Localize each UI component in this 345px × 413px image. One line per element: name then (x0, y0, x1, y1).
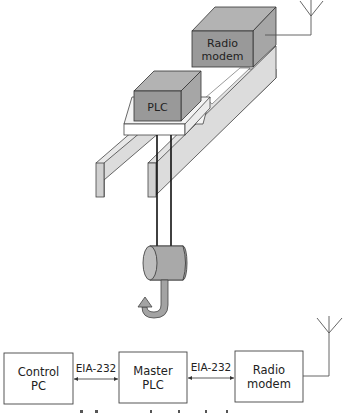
radio-modem-label-line1: Radio (207, 37, 238, 50)
plc-label: PLC (147, 101, 168, 114)
radio-modem-box: Radio modem (235, 351, 303, 402)
control-pc-label-line2: PC (31, 379, 46, 393)
radio-modem-label-line2: modem (202, 50, 244, 63)
link-control-pc-master-plc: EIA-232 (74, 362, 118, 381)
link-2-label: EIA-232 (191, 361, 232, 373)
master-plc-label-line2: PLC (142, 378, 163, 392)
hook-icon (138, 280, 168, 318)
control-pc-box: Control PC (4, 353, 73, 404)
block-diagram: Control PC Master PLC Radio modem EIA-23… (4, 316, 342, 413)
block-antenna-icon (303, 316, 342, 376)
link-master-plc-radio-modem: EIA-232 (188, 361, 234, 380)
link-1-label: EIA-232 (76, 362, 117, 374)
hook-block (143, 246, 187, 280)
master-plc-box: Master PLC (119, 352, 187, 403)
master-plc-label-line1: Master (133, 364, 173, 378)
control-pc-label-line1: Control (18, 365, 60, 379)
crane-illustration: PLC Radio modem (96, 0, 323, 318)
radio-modem-box-label-line2: modem (247, 377, 291, 391)
crane-control-diagram: PLC Radio modem (0, 0, 345, 413)
radio-modem-box-label-line1: Radio (253, 363, 285, 377)
